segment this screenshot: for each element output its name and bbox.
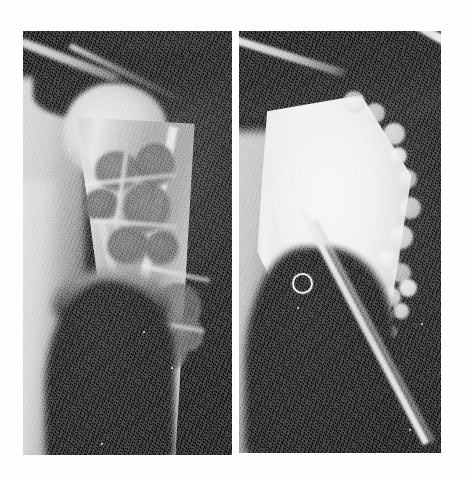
- radiograph-figure: expansile multiloculated lytic lesion of…: [0, 0, 467, 478]
- film-grain-right-soft: [239, 31, 441, 453]
- radiograph-panel-right[interactable]: cavity curetted and packed with dense ra…: [239, 31, 441, 453]
- figure-caption: [0, 0, 1, 1]
- film-grain-left-soft: [23, 31, 232, 455]
- radiograph-panel-left[interactable]: expansile multiloculated lytic lesion of…: [23, 31, 232, 455]
